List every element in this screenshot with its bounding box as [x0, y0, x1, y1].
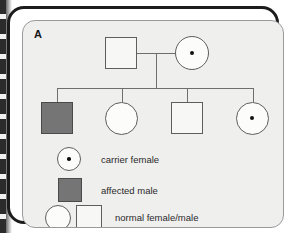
figure-panel-a: A — [0, 0, 291, 233]
panel-outer-frame: A — [7, 6, 279, 224]
page-title: A — [34, 28, 42, 40]
sibling-drop-line-4 — [253, 88, 254, 102]
pedigree-individual-II-1-affected-male — [41, 102, 73, 134]
descent-line — [156, 53, 157, 88]
pedigree-panel: A — [22, 20, 284, 228]
legend-open-circle-icon — [45, 205, 71, 228]
pedigree-individual-II-3-normal-male — [171, 102, 203, 134]
carrier-dot-icon — [250, 116, 254, 120]
legend-filled-square-icon — [58, 178, 82, 202]
legend-carrier-dot-icon — [67, 157, 71, 161]
legend-label-normal-female-male: normal female/male — [115, 213, 198, 223]
carrier-dot-icon — [190, 51, 194, 55]
sibling-drop-line-2 — [122, 88, 123, 102]
sibling-drop-line-3 — [187, 88, 188, 102]
pedigree-individual-II-2-normal-female — [105, 102, 138, 135]
legend-label-affected-male: affected male — [101, 186, 158, 196]
sibling-drop-line-1 — [57, 88, 58, 102]
sibship-line — [57, 88, 253, 89]
pedigree-individual-I-1-normal-male — [105, 37, 137, 69]
legend-label-carrier-female: carrier female — [101, 155, 159, 165]
legend-open-square-icon — [76, 205, 102, 228]
